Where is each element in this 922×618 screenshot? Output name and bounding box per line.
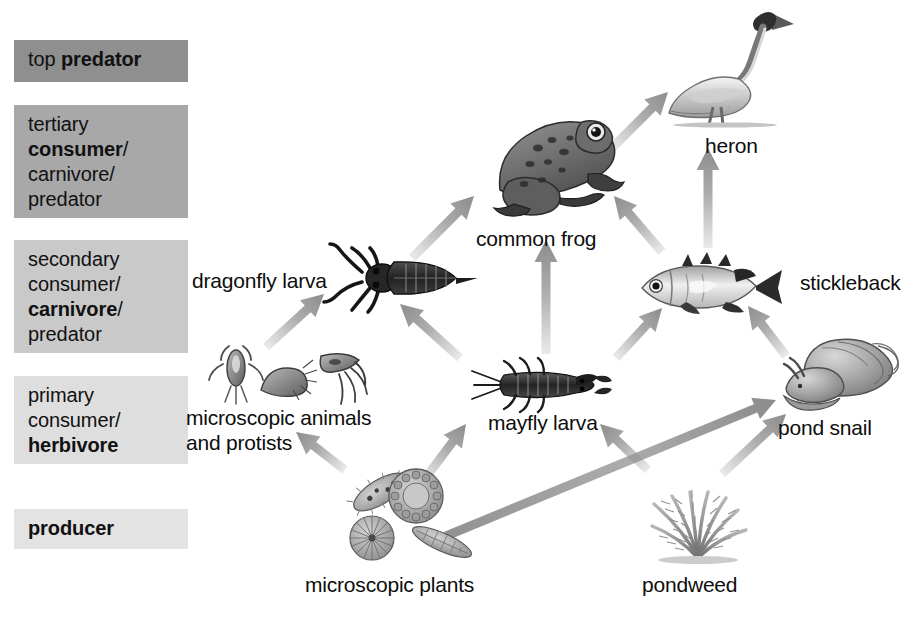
dragonfly-larva-icon [318,238,488,320]
legend-term-emphasis: producer [28,517,114,539]
legend-term: predator [28,188,102,210]
legend-item-primary-consumer: primaryconsumer/herbivore [14,376,188,464]
pondweed-icon [628,458,768,568]
food-web-diagram: top predatortertiaryconsumer/carnivore/p… [0,0,922,618]
legend-line: consumer/ [28,272,176,297]
pond-snail-label: pond snail [778,415,872,440]
legend-term: top [28,48,61,70]
stickleback-label: stickleback [800,270,901,295]
legend-term: tertiary [28,113,88,135]
legend-term: predator [28,323,102,345]
common-frog-label: common frog [476,226,596,251]
legend-term-emphasis: herbivore [28,434,118,456]
legend-term-emphasis: consumer [28,138,123,160]
legend-line: primary [28,383,176,408]
microscopic-animals-label: microscopic animals and protists [186,405,371,455]
microscopic-plants-icon [338,466,490,566]
legend-line: secondary [28,247,176,272]
legend-item-tertiary-consumer: tertiaryconsumer/carnivore/predator [14,105,188,218]
legend-term: secondary [28,248,119,270]
legend-term: consumer/ [28,409,120,431]
legend-line: carnivore/ [28,162,176,187]
legend-term: / [123,138,128,160]
legend-line: carnivore/ [28,297,176,322]
dragonfly-larva-label: dragonfly larva [192,268,327,293]
microscopic-plants-label: microscopic plants [305,572,474,597]
legend-line: top predator [28,47,176,72]
legend-item-top-predator: top predator [14,40,188,82]
legend-term: / [117,298,122,320]
legend-term-emphasis: predator [61,48,141,70]
mayfly-larva-icon [470,355,620,415]
heron-icon [653,5,803,129]
pondweed-label: pondweed [642,572,737,597]
legend-term: primary [28,384,94,406]
legend-term: carnivore/ [28,163,115,185]
arrow-mayfly-to-frog [535,240,558,354]
heron-label: heron [705,133,758,158]
legend-term-emphasis: carnivore [28,298,117,320]
legend-line: herbivore [28,433,176,458]
legend-line: consumer/ [28,408,176,433]
common-frog-icon [478,104,638,224]
mayfly-larva-label: mayfly larva [488,410,598,435]
legend-line: predator [28,187,176,212]
legend-term: consumer/ [28,273,120,295]
legend-item-secondary-consumer: secondaryconsumer/carnivore/predator [14,240,188,353]
pond-snail-icon [778,336,908,412]
legend-line: consumer/ [28,137,176,162]
stickleback-icon [630,252,790,324]
legend-line: predator [28,322,176,347]
legend-item-producer: producer [14,509,188,549]
arrow-stickleback-to-heron [697,148,720,248]
legend-line: tertiary [28,112,176,137]
legend-line: producer [28,516,176,541]
microscopic-animals-icon [205,338,375,410]
